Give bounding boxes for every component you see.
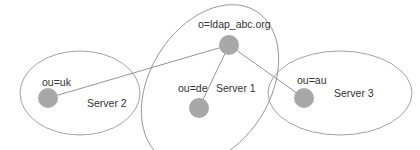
ldap-diagram: o=ldap_abc.org ou=uk ou=de ou=au Server …: [0, 0, 420, 150]
node-de-label: ou=de: [178, 82, 208, 94]
node-au: [294, 88, 314, 108]
node-root: [219, 35, 239, 55]
edge-root-de: [199, 45, 229, 108]
node-de: [189, 98, 209, 118]
node-uk: [38, 88, 58, 108]
server-1-label: Server 1: [216, 82, 256, 94]
node-uk-label: ou=uk: [42, 76, 72, 88]
server-2-region: [20, 51, 140, 135]
server-3-label: Server 3: [334, 87, 374, 99]
node-root-label: o=ldap_abc.org: [198, 18, 271, 30]
node-au-label: ou=au: [297, 74, 327, 86]
server-2-label: Server 2: [87, 97, 127, 109]
